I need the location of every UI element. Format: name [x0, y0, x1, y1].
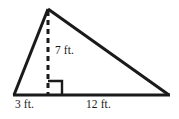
triangle-left-side [14, 9, 48, 95]
base-right-dimension-label: 12 ft. [86, 99, 111, 111]
right-angle-marker-icon [48, 81, 62, 95]
base-left-dimension-label: 3 ft. [15, 99, 34, 111]
height-dimension-label: 7 ft. [55, 45, 74, 57]
triangle-diagram-canvas: 7 ft. 3 ft. 12 ft. [0, 0, 179, 119]
